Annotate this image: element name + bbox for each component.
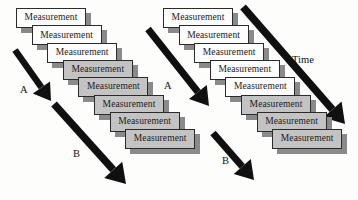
right-arrow-a-label: A: [164, 80, 172, 91]
right-arrow-b-label: B: [222, 155, 229, 166]
measurement-box: Measurement: [125, 129, 195, 149]
left-arrow-a-label: A: [20, 84, 28, 95]
measurement-box: Measurement: [272, 129, 342, 149]
left-arrow-b-label: B: [73, 148, 80, 159]
left-arrow-a-shaft: [15, 50, 41, 87]
time-arrow-label: Time: [292, 54, 314, 65]
diagram-canvas: MeasurementMeasurementMeasurementMeasure…: [0, 0, 358, 200]
